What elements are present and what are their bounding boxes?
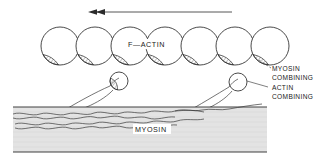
f-actin-label: F—ACTIN	[128, 40, 165, 49]
callout-line-4: COMBINING	[272, 93, 313, 100]
callout-line-1: MYOSIN	[272, 65, 300, 72]
movement-direction-arrow	[88, 9, 232, 15]
myosin-label: MYOSIN	[135, 125, 167, 134]
sliding-filament-diagram: F—ACTIN	[0, 0, 328, 163]
actin-monomer	[251, 27, 289, 65]
callout-line-2: COMBINING	[272, 74, 313, 81]
actin-monomer	[76, 27, 114, 65]
arrow-head-icon	[96, 9, 105, 15]
actin-monomer	[181, 27, 219, 65]
actin-monomer	[216, 27, 254, 65]
actin-monomer	[41, 27, 79, 65]
myosin-head-tip-right	[229, 73, 247, 91]
callout-line-3: ACTIN	[272, 84, 294, 91]
arrow-tip-icon	[88, 9, 97, 15]
callout-text-block: MYOSIN COMBINING ACTIN COMBINING	[272, 65, 313, 100]
diagram-canvas: F—ACTIN	[0, 0, 328, 163]
